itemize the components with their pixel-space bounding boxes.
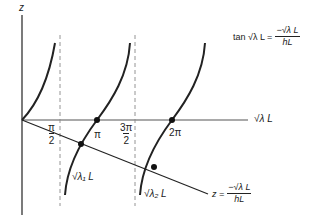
point-two-pi <box>169 117 175 123</box>
point-root2 <box>151 164 157 170</box>
tick-half-pi: π 2 <box>47 122 56 146</box>
tan-branch-0 <box>22 43 55 120</box>
root1-label: √λ₁ L <box>72 172 94 182</box>
tick-three-half-pi: 3π 2 <box>119 122 133 146</box>
tan-equation: tan √λ L = −√λ L hL <box>233 26 300 48</box>
tick-pi: π <box>94 130 101 140</box>
x-axis-label: √λ L <box>254 114 273 124</box>
tick-two-pi: 2π <box>169 128 181 138</box>
line-equation: z = −√λ L hL <box>212 183 251 205</box>
point-pi <box>94 117 100 123</box>
root2-label: √λ₂ L <box>144 189 167 199</box>
z-axis-label: z <box>19 3 24 13</box>
point-root1 <box>78 141 84 147</box>
